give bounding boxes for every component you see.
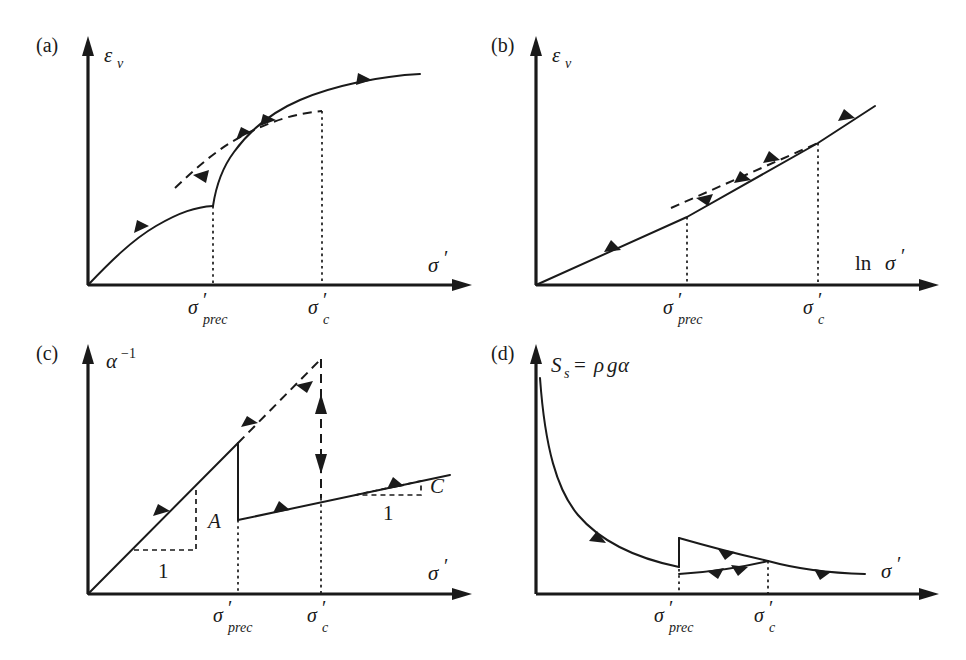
panel-letter-b: (b) xyxy=(491,34,514,57)
figure-container: (a) ε v σ ′ σ ′ prec σ ′ c xyxy=(0,0,966,660)
tick-sigma-c-main: σ xyxy=(308,296,319,318)
arrow-dashed-ext-right xyxy=(241,416,258,427)
arrow-dashed-ext-left xyxy=(296,381,313,393)
tick-sigma-prec-prime: ′ xyxy=(678,289,682,311)
tick-sigma-c-prime: ′ xyxy=(818,289,822,311)
y-axis-label: α −1 xyxy=(106,346,136,373)
y-axis-label-epsilon: ε xyxy=(104,43,113,67)
y-axis-label-alpha: α xyxy=(618,353,630,377)
tick-sigma-prec-main: σ xyxy=(188,296,199,318)
panel-d-axes xyxy=(530,344,939,600)
curve-hyperbolic-decay xyxy=(540,378,679,567)
tick-sigma-c-main: σ xyxy=(307,604,318,626)
y-axis-label-epsilon: ε xyxy=(552,43,561,67)
tick-sigma-prec-prime: ′ xyxy=(669,597,673,619)
tick-sigma-prec-prime: ′ xyxy=(228,597,232,619)
tick-label-sigma-prec: σ ′ prec xyxy=(663,289,703,327)
y-axis-label-equals: = xyxy=(574,353,586,377)
arrow-vertical-down xyxy=(315,454,327,474)
x-axis-label: σ ′ xyxy=(428,555,448,585)
tick-sigma-c-prime: ′ xyxy=(769,597,773,619)
tick-sigma-c-prime: ′ xyxy=(323,289,327,311)
arrow-recompression xyxy=(604,240,621,252)
curve-primary-loading-lower xyxy=(88,206,213,285)
y-axis-label-subscript: v xyxy=(565,56,572,71)
tick-sigma-c-main: σ xyxy=(803,296,814,318)
tick-label-sigma-prec: σ ′ prec xyxy=(188,289,228,327)
y-axis-label-g: g xyxy=(607,353,618,377)
y-axis-label: ε v xyxy=(104,43,124,71)
panel-letter-a: (a) xyxy=(36,34,58,57)
tick-sigma-prec-prime: ′ xyxy=(203,289,207,311)
x-axis-label-prime: ′ xyxy=(897,553,901,575)
tick-sigma-c-main: σ xyxy=(754,604,765,626)
tick-label-sigma-c: σ ′ c xyxy=(754,597,776,635)
arrow-upper-loop xyxy=(718,549,735,560)
panel-d-svg: (d) S s = ρ g α σ ′ σ ′ prec σ ′ c xyxy=(483,330,966,660)
y-axis-label-S: S xyxy=(551,353,562,377)
slope-C-run-label: 1 xyxy=(383,501,394,525)
curve-recompression-virgin xyxy=(536,106,875,285)
x-axis-arrowhead xyxy=(452,279,472,291)
slope-triangle-A xyxy=(134,489,196,550)
tick-label-sigma-prec: σ ′ prec xyxy=(654,597,694,635)
arrow-shallow-2 xyxy=(387,477,404,489)
panel-letter-c: (c) xyxy=(36,342,58,365)
x-axis-arrowhead xyxy=(919,279,939,291)
x-axis-arrowhead xyxy=(919,588,939,600)
x-axis-label-sigma: σ xyxy=(881,559,893,583)
y-axis-label-superscript: −1 xyxy=(121,346,136,361)
y-axis-label: ε v xyxy=(552,43,572,71)
tick-sigma-c-sub: c xyxy=(818,312,825,327)
tick-sigma-prec-main: σ xyxy=(654,604,665,626)
y-axis-arrowhead xyxy=(530,36,542,56)
x-axis-label-prime: ′ xyxy=(901,245,905,267)
arrow-vertical-up xyxy=(315,394,327,414)
arrow-rebound-right xyxy=(763,151,780,163)
slope-A-rise-label: A xyxy=(206,509,221,533)
x-axis-label-sigma: σ xyxy=(428,253,440,277)
panel-b-axes xyxy=(530,36,939,291)
tick-sigma-c-sub: c xyxy=(323,312,330,327)
y-axis-label-alpha: α xyxy=(106,349,118,373)
arrow-tail xyxy=(814,569,831,580)
line-steep-dashed-extension xyxy=(238,359,321,443)
arrow-lower-loop-left xyxy=(707,568,724,579)
x-axis-label: σ ′ xyxy=(428,247,448,277)
x-axis-label-sigma: σ xyxy=(885,251,897,275)
y-axis-label-rho: ρ xyxy=(593,353,604,377)
tick-sigma-prec-sub: prec xyxy=(677,312,703,327)
panel-c-axes xyxy=(82,344,472,600)
panel-a: (a) ε v σ ′ σ ′ prec σ ′ c xyxy=(0,0,483,330)
slope-A-run-label: 1 xyxy=(158,559,169,583)
x-axis-label: σ ′ xyxy=(881,553,901,583)
y-axis-label-subscript: v xyxy=(117,56,124,71)
tick-label-sigma-prec: σ ′ prec xyxy=(213,597,253,635)
tick-sigma-prec-main: σ xyxy=(663,296,674,318)
y-axis-label-subscript: s xyxy=(564,366,570,381)
panel-a-svg: (a) ε v σ ′ σ ′ prec σ ′ c xyxy=(0,0,483,330)
tick-label-sigma-c: σ ′ c xyxy=(308,289,330,327)
x-axis-label-ln: ln xyxy=(855,251,872,275)
panel-c: 1 A 1 C (c) α −1 σ ′ σ ′ prec xyxy=(0,330,483,660)
tick-sigma-c-sub: c xyxy=(769,620,776,635)
x-axis-label: ln σ ′ xyxy=(855,245,905,275)
y-axis-arrowhead xyxy=(82,344,94,364)
arrow-upper-loading-2 xyxy=(356,73,372,85)
panel-d: (d) S s = ρ g α σ ′ σ ′ prec σ ′ c xyxy=(483,330,966,660)
arrow-virgin-2 xyxy=(838,109,855,121)
arrow-shallow-1 xyxy=(273,501,290,513)
curve-reload-step-upper xyxy=(213,74,420,206)
curve-rebound-dashed xyxy=(671,143,818,208)
tick-sigma-c-prime: ′ xyxy=(322,597,326,619)
panel-c-svg: 1 A 1 C (c) α −1 σ ′ σ ′ prec xyxy=(0,330,483,660)
arrow-dashed-left xyxy=(193,170,209,183)
x-axis-label-prime: ′ xyxy=(444,247,448,269)
x-axis-label-sigma: σ xyxy=(428,561,440,585)
tick-label-sigma-c: σ ′ c xyxy=(803,289,825,327)
x-axis-label-prime: ′ xyxy=(444,555,448,577)
y-axis-label: S s = ρ g α xyxy=(551,353,630,381)
curve-lower-loop-branch xyxy=(679,561,768,574)
y-axis-arrowhead xyxy=(530,344,542,364)
tick-sigma-prec-sub: prec xyxy=(668,620,694,635)
